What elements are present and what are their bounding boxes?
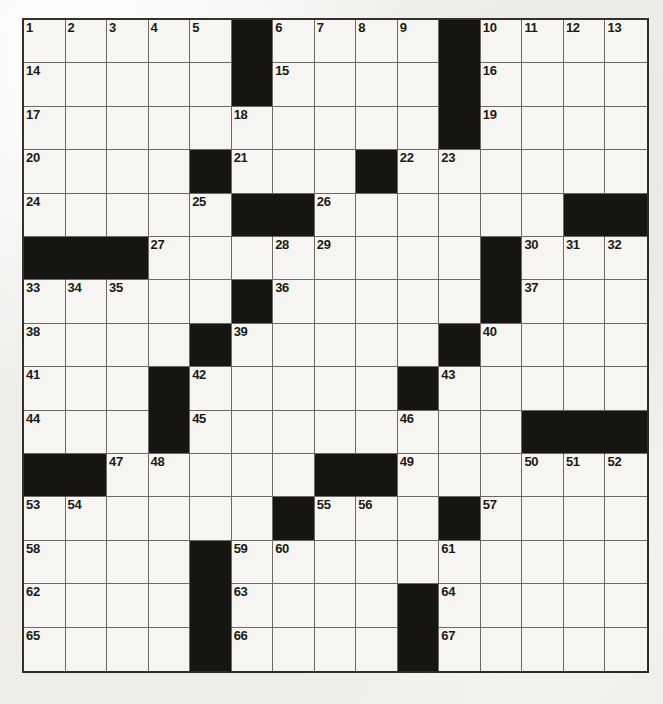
grid-cell-numbered[interactable]: 40	[481, 324, 523, 367]
grid-cell[interactable]	[439, 411, 481, 454]
grid-cell[interactable]	[315, 280, 357, 323]
grid-cell-numbered[interactable]: 26	[315, 194, 357, 237]
grid-cell[interactable]	[564, 150, 606, 193]
grid-cell-numbered[interactable]: 25	[190, 194, 232, 237]
grid-cell[interactable]	[107, 63, 149, 106]
grid-cell-numbered[interactable]: 18	[232, 107, 274, 150]
grid-cell-numbered[interactable]: 14	[24, 63, 66, 106]
grid-cell[interactable]	[439, 280, 481, 323]
grid-cell-numbered[interactable]: 44	[24, 411, 66, 454]
grid-cell-numbered[interactable]: 37	[522, 280, 564, 323]
grid-cell-numbered[interactable]: 22	[398, 150, 440, 193]
grid-cell[interactable]	[356, 411, 398, 454]
grid-cell[interactable]	[66, 367, 108, 410]
grid-cell[interactable]	[149, 584, 191, 627]
grid-cell[interactable]	[564, 107, 606, 150]
grid-cell[interactable]	[273, 150, 315, 193]
grid-cell[interactable]	[481, 454, 523, 497]
grid-cell[interactable]	[398, 237, 440, 280]
grid-cell[interactable]	[107, 584, 149, 627]
grid-cell[interactable]	[605, 584, 647, 627]
grid-cell[interactable]	[232, 497, 274, 540]
grid-cell-numbered[interactable]: 29	[315, 237, 357, 280]
grid-cell[interactable]	[481, 367, 523, 410]
grid-cell-numbered[interactable]: 4	[149, 20, 191, 63]
grid-cell[interactable]	[522, 150, 564, 193]
grid-cell[interactable]	[605, 280, 647, 323]
grid-cell[interactable]	[273, 107, 315, 150]
grid-cell[interactable]	[564, 280, 606, 323]
grid-cell[interactable]	[149, 63, 191, 106]
grid-cell[interactable]	[522, 63, 564, 106]
grid-cell[interactable]	[315, 63, 357, 106]
grid-cell[interactable]	[605, 63, 647, 106]
grid-cell-numbered[interactable]: 64	[439, 584, 481, 627]
grid-cell[interactable]	[398, 194, 440, 237]
grid-cell-numbered[interactable]: 42	[190, 367, 232, 410]
grid-cell[interactable]	[522, 194, 564, 237]
grid-cell[interactable]	[107, 628, 149, 671]
grid-cell[interactable]	[149, 324, 191, 367]
grid-cell[interactable]	[564, 367, 606, 410]
grid-cell-numbered[interactable]: 6	[273, 20, 315, 63]
grid-cell[interactable]	[66, 150, 108, 193]
grid-cell-numbered[interactable]: 43	[439, 367, 481, 410]
grid-cell[interactable]	[66, 63, 108, 106]
grid-cell-numbered[interactable]: 67	[439, 628, 481, 671]
grid-cell[interactable]	[315, 541, 357, 584]
grid-cell-numbered[interactable]: 17	[24, 107, 66, 150]
grid-cell-numbered[interactable]: 28	[273, 237, 315, 280]
grid-cell[interactable]	[481, 584, 523, 627]
grid-cell[interactable]	[356, 367, 398, 410]
grid-cell[interactable]	[605, 367, 647, 410]
grid-cell[interactable]	[273, 454, 315, 497]
grid-cell-numbered[interactable]: 53	[24, 497, 66, 540]
grid-cell-numbered[interactable]: 61	[439, 541, 481, 584]
grid-cell[interactable]	[315, 367, 357, 410]
grid-cell-numbered[interactable]: 16	[481, 63, 523, 106]
grid-cell[interactable]	[232, 454, 274, 497]
grid-cell-numbered[interactable]: 3	[107, 20, 149, 63]
grid-cell[interactable]	[398, 324, 440, 367]
grid-cell[interactable]	[522, 541, 564, 584]
grid-cell-numbered[interactable]: 8	[356, 20, 398, 63]
grid-cell[interactable]	[564, 541, 606, 584]
grid-cell[interactable]	[315, 150, 357, 193]
grid-cell-numbered[interactable]: 30	[522, 237, 564, 280]
grid-cell-numbered[interactable]: 58	[24, 541, 66, 584]
grid-cell[interactable]	[273, 411, 315, 454]
grid-cell[interactable]	[356, 584, 398, 627]
grid-cell[interactable]	[107, 107, 149, 150]
grid-cell-numbered[interactable]: 5	[190, 20, 232, 63]
grid-cell-numbered[interactable]: 7	[315, 20, 357, 63]
grid-cell[interactable]	[564, 497, 606, 540]
grid-cell[interactable]	[149, 628, 191, 671]
grid-cell-numbered[interactable]: 34	[66, 280, 108, 323]
grid-cell[interactable]	[564, 324, 606, 367]
grid-cell[interactable]	[605, 150, 647, 193]
grid-cell[interactable]	[522, 628, 564, 671]
grid-cell[interactable]	[481, 194, 523, 237]
grid-cell-numbered[interactable]: 20	[24, 150, 66, 193]
grid-cell-numbered[interactable]: 56	[356, 497, 398, 540]
grid-cell[interactable]	[605, 324, 647, 367]
grid-cell-numbered[interactable]: 63	[232, 584, 274, 627]
grid-cell-numbered[interactable]: 46	[398, 411, 440, 454]
grid-cell-numbered[interactable]: 10	[481, 20, 523, 63]
grid-cell[interactable]	[605, 107, 647, 150]
grid-cell-numbered[interactable]: 15	[273, 63, 315, 106]
grid-cell[interactable]	[439, 237, 481, 280]
grid-cell[interactable]	[66, 628, 108, 671]
grid-cell[interactable]	[315, 584, 357, 627]
grid-cell-numbered[interactable]: 66	[232, 628, 274, 671]
grid-cell[interactable]	[481, 541, 523, 584]
grid-cell[interactable]	[107, 497, 149, 540]
grid-cell[interactable]	[356, 107, 398, 150]
grid-cell-numbered[interactable]: 65	[24, 628, 66, 671]
grid-cell-numbered[interactable]: 12	[564, 20, 606, 63]
grid-cell[interactable]	[273, 628, 315, 671]
grid-cell[interactable]	[398, 107, 440, 150]
grid-cell[interactable]	[356, 324, 398, 367]
grid-cell[interactable]	[522, 107, 564, 150]
grid-cell-numbered[interactable]: 62	[24, 584, 66, 627]
